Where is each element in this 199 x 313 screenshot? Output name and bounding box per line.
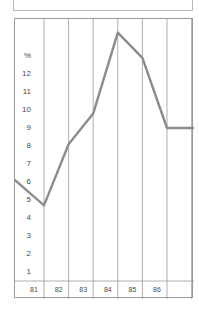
x-tick-85: 85 bbox=[123, 286, 141, 294]
x-tick-86: 86 bbox=[148, 286, 166, 294]
y-tick-12: 12 bbox=[17, 70, 31, 78]
line-chart-svg bbox=[15, 19, 194, 299]
x-tick-84: 84 bbox=[99, 286, 117, 294]
y-tick-10: 10 bbox=[17, 106, 31, 114]
y-tick-2: 2 bbox=[17, 250, 31, 258]
y-tick-8: 8 bbox=[17, 142, 31, 150]
y-tick-11: 11 bbox=[17, 88, 31, 96]
x-tick-81: 81 bbox=[25, 286, 43, 294]
y-tick-9: 9 bbox=[17, 124, 31, 132]
y-tick-5: 5 bbox=[17, 196, 31, 204]
x-tick-end-87: 87 bbox=[198, 286, 199, 294]
chart-page: 123456789101112% 8182838485868787 bbox=[0, 0, 199, 313]
x-tick-83: 83 bbox=[74, 286, 92, 294]
chart-plot-area: 123456789101112% 8182838485868787 bbox=[14, 18, 193, 298]
y-tick-7: 7 bbox=[17, 160, 31, 168]
x-tick-82: 82 bbox=[50, 286, 68, 294]
caption-box bbox=[13, 0, 193, 11]
y-axis-unit-label: % bbox=[17, 52, 31, 60]
y-tick-1: 1 bbox=[17, 268, 31, 276]
y-tick-6: 6 bbox=[17, 178, 31, 186]
y-tick-3: 3 bbox=[17, 232, 31, 240]
y-tick-4: 4 bbox=[17, 214, 31, 222]
vertical-gridlines bbox=[44, 19, 192, 299]
